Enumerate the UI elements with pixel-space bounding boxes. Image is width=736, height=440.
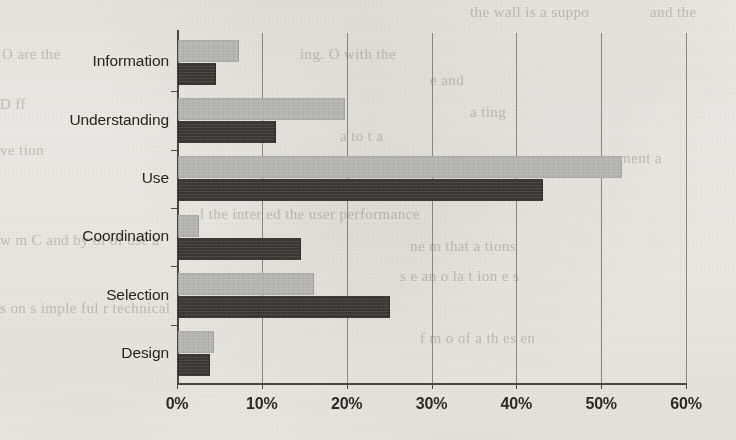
y-axis-category-label: Selection [0, 286, 169, 304]
x-axis-tick-label: 60% [670, 395, 701, 413]
bar-dark-gray-series-use [178, 179, 543, 201]
bar-light-gray-series-selection [178, 273, 314, 295]
y-axis-category-label: Design [0, 344, 169, 362]
bar-dark-gray-series-information [178, 63, 216, 85]
bar-dark-gray-series-design [178, 354, 210, 376]
y-axis-category-label: Use [0, 169, 169, 187]
x-gridline [262, 33, 263, 383]
y-axis-category-label: Understanding [0, 111, 169, 129]
bar-light-gray-series-information [178, 40, 239, 62]
y-axis-category-label: Coordination [0, 227, 169, 245]
x-axis-tick-label: 30% [416, 395, 447, 413]
x-gridline [347, 33, 348, 383]
bar-light-gray-series-use [178, 156, 622, 178]
x-gridline [516, 33, 517, 383]
bar-light-gray-series-coordination [178, 215, 199, 237]
y-axis-tick [171, 266, 177, 267]
x-axis-tick-label: 40% [501, 395, 532, 413]
x-axis-tick-label: 50% [585, 395, 616, 413]
y-axis-tick [171, 91, 177, 92]
bar-dark-gray-series-selection [178, 296, 390, 318]
bar-light-gray-series-design [178, 331, 214, 353]
x-gridline [601, 33, 602, 383]
x-axis-tick-label: 10% [246, 395, 277, 413]
x-axis-line [177, 383, 687, 385]
y-axis-category-label: Information [0, 52, 169, 70]
x-gridline [686, 33, 687, 383]
x-gridline [432, 33, 433, 383]
y-axis-tick [171, 150, 177, 151]
x-axis-tick-label: 20% [331, 395, 362, 413]
horizontal-bar-chart: 0%10%20%30%40%50%60%InformationUnderstan… [0, 0, 736, 440]
bar-light-gray-series-understanding [178, 98, 345, 120]
bar-dark-gray-series-coordination [178, 238, 301, 260]
bar-dark-gray-series-understanding [178, 121, 276, 143]
x-axis-tick-label: 0% [166, 395, 189, 413]
y-axis-tick [171, 325, 177, 326]
y-axis-tick [171, 208, 177, 209]
